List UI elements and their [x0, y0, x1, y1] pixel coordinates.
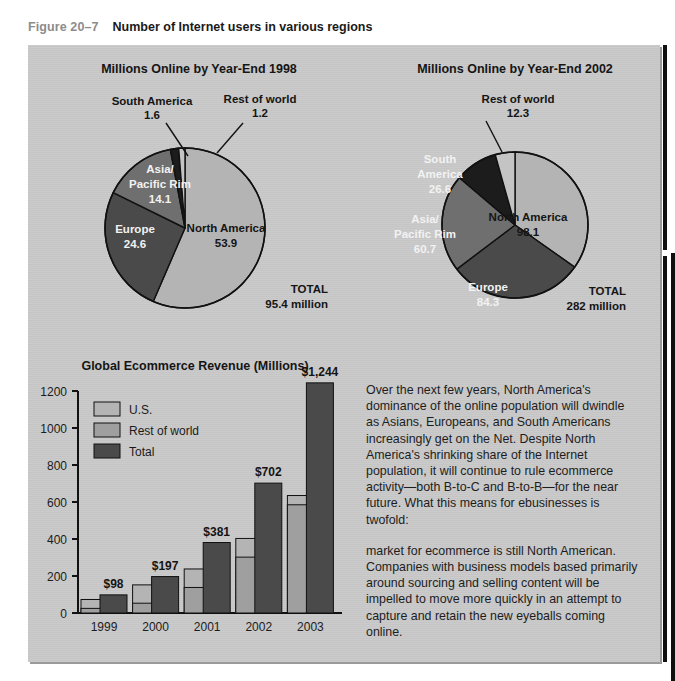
- pie-1998-value-south-america: 1.6: [144, 109, 160, 121]
- pie-2002-value-asia-pacific: 60.7: [414, 243, 436, 255]
- pie-1998-value-rest-of-world: 1.2: [252, 107, 268, 119]
- pie-2002-value-rest-of-world: 12.3: [507, 107, 529, 119]
- bar-chart-svg: Global Ecommerce Revenue (Millions) 0200…: [30, 350, 360, 650]
- pie-2002-callout-line-rest-of-world: [486, 121, 502, 152]
- pie-2002-value-europe: 84.3: [477, 296, 499, 308]
- x-tick-label-2001: 2001: [194, 620, 221, 634]
- pie-2002-label-north-america: North America: [489, 211, 568, 223]
- pie-1998-value-asia-pacific: 14.1: [149, 193, 172, 205]
- pie-2002-slices: [442, 152, 588, 298]
- pie-1998-value-europe: 24.6: [124, 238, 146, 250]
- pie-1998-label-europe: Europe: [115, 223, 155, 235]
- pie-chart-2002: Millions Online by Year-End 2002 Rest of…: [370, 45, 660, 345]
- bar-data-label-2002: $702: [255, 465, 282, 479]
- x-tick-label-2000: 2000: [142, 620, 169, 634]
- y-tick-label: 200: [47, 570, 67, 584]
- y-tick-label: 800: [47, 459, 67, 473]
- legend-swatch-u-s: [94, 402, 120, 416]
- pie-2002-label-south-america-line2: America: [417, 168, 463, 180]
- body-paragraph-2: market for ecommerce is still North Amer…: [366, 543, 640, 640]
- legend-swatch-rest-of-world: [94, 423, 120, 437]
- pie-2002-label-asia-pacific-line2: Pacific Rim: [394, 228, 456, 240]
- bar-chart-x-axis: 19992000200120022003: [91, 620, 324, 634]
- x-tick-label-2003: 2003: [297, 620, 324, 634]
- pie-1998-label-rest-of-world: Rest of world: [224, 93, 297, 105]
- pie-2002-label-rest-of-world: Rest of world: [482, 93, 555, 105]
- bar-total-2002: [255, 483, 282, 613]
- bar-data-label-2001: $381: [203, 525, 230, 539]
- figure-number: Figure 20–7: [28, 20, 99, 34]
- bar-chart-title: Global Ecommerce Revenue (Millions): [81, 359, 308, 373]
- body-copy: Over the next few years, North America's…: [366, 382, 640, 640]
- legend-label-rest-of-world: Rest of world: [129, 424, 199, 438]
- pie-2002-total-value: 282 million: [567, 300, 626, 312]
- figure-caption: Figure 20–7Number of Internet users in v…: [28, 20, 372, 34]
- bar-chart-legend: U.S.Rest of worldTotal: [94, 402, 199, 459]
- bar-total-2001: [203, 543, 230, 613]
- bar-data-label-2003: $1,244: [302, 365, 339, 379]
- pie-2002-total-label: TOTAL: [589, 285, 626, 297]
- pie-2002-value-south-america: 26.6: [429, 183, 451, 195]
- legend-swatch-total: [94, 444, 120, 458]
- bar-total-1999: [100, 595, 127, 613]
- page-edge-rule: [671, 253, 675, 681]
- pie-1998-title: Millions Online by Year-End 1998: [101, 62, 297, 76]
- y-tick-label: 400: [47, 533, 67, 547]
- bar-data-label-2000: $197: [152, 559, 179, 573]
- pie-chart-1998: Millions Online by Year-End 1998 South A…: [28, 45, 370, 345]
- pie-1998-label-asia-pacific-line2: Pacific Rim: [129, 178, 191, 190]
- bar-chart-ecommerce: Global Ecommerce Revenue (Millions) 0200…: [30, 350, 360, 650]
- pie-2002-svg: Millions Online by Year-End 2002 Rest of…: [370, 45, 660, 345]
- x-tick-label-1999: 1999: [91, 620, 118, 634]
- page-tab-upper: [663, 45, 667, 250]
- pie-1998-label-north-america: North America: [187, 222, 266, 234]
- pie-2002-value-north-america: 98.1: [517, 226, 540, 238]
- pie-1998-label-south-america: South America: [112, 95, 193, 107]
- pie-1998-value-north-america: 53.9: [215, 237, 237, 249]
- page-tab-lower: [663, 256, 667, 662]
- y-tick-label: 600: [47, 496, 67, 510]
- pie-1998-label-asia-pacific-line1: Asia/: [146, 163, 174, 175]
- pie-2002-label-asia-pacific-line1: Asia/: [411, 213, 439, 225]
- y-tick-label: 0: [60, 607, 67, 621]
- pie-1998-svg: Millions Online by Year-End 1998 South A…: [28, 45, 370, 345]
- pie-2002-title: Millions Online by Year-End 2002: [417, 62, 613, 76]
- x-tick-label-2002: 2002: [245, 620, 272, 634]
- pie-1998-total-value: 95.4 million: [265, 298, 328, 310]
- pie-1998-total-label: TOTAL: [291, 283, 328, 295]
- pie-2002-label-south-america-line1: South: [424, 153, 457, 165]
- pie-2002-label-europe: Europe: [468, 281, 508, 293]
- figure-title: Number of Internet users in various regi…: [113, 20, 373, 34]
- y-tick-label: 1000: [40, 422, 67, 436]
- pie-1998-callout-line-rest-of-world: [217, 123, 243, 153]
- bar-data-label-1999: $98: [103, 577, 123, 591]
- bar-total-2000: [152, 577, 179, 613]
- legend-label-u-s: U.S.: [129, 403, 152, 417]
- y-tick-label: 1200: [40, 385, 67, 399]
- body-paragraph-1: Over the next few years, North America's…: [366, 382, 640, 528]
- bar-total-2003: [306, 383, 333, 613]
- legend-label-total: Total: [129, 445, 154, 459]
